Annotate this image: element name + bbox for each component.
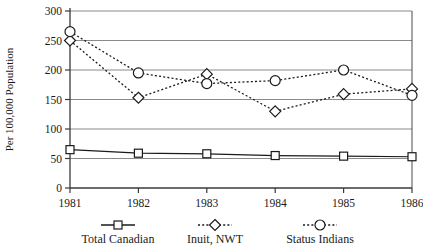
legend-square-marker bbox=[114, 221, 122, 229]
y-tick-label-200: 200 bbox=[45, 64, 63, 76]
series-line-1 bbox=[70, 41, 412, 112]
y-tick-label-250: 250 bbox=[45, 35, 63, 47]
x-tick-label-1985: 1985 bbox=[332, 197, 355, 209]
legend-diamond-marker bbox=[210, 220, 221, 231]
series-line-0 bbox=[70, 150, 412, 157]
series-markers-2 bbox=[65, 27, 417, 101]
series-inuit-nwt bbox=[70, 41, 412, 112]
x-tick-label-1986: 1986 bbox=[401, 197, 423, 209]
data-point-1-4 bbox=[338, 89, 349, 100]
series-total-canadian bbox=[70, 150, 412, 157]
y-tick-label-300: 300 bbox=[45, 5, 63, 17]
x-tick-label-1983: 1983 bbox=[195, 197, 218, 209]
legend-item-1: Inuit, NWT bbox=[187, 220, 244, 247]
series-line-2 bbox=[70, 32, 412, 96]
series-markers-1 bbox=[65, 35, 418, 117]
data-point-2-0 bbox=[65, 27, 75, 37]
legend-label-0: Total Canadian bbox=[82, 232, 155, 246]
data-point-0-0 bbox=[66, 146, 74, 154]
chart-figure: 0501001502002503001981198219831984198519… bbox=[0, 0, 423, 247]
x-tick-label-1981: 1981 bbox=[59, 197, 82, 209]
line-chart: 0501001502002503001981198219831984198519… bbox=[0, 0, 423, 247]
x-tick-label-1984: 1984 bbox=[264, 197, 287, 209]
legend-label-2: Status Indians bbox=[286, 232, 354, 246]
data-point-2-3 bbox=[270, 76, 280, 86]
data-point-1-3 bbox=[270, 106, 281, 117]
data-point-0-1 bbox=[134, 149, 142, 157]
y-tick-label-150: 150 bbox=[45, 94, 63, 106]
data-point-2-1 bbox=[133, 68, 143, 78]
y-axis-title: Per 100,000 Population bbox=[3, 47, 15, 151]
data-point-2-4 bbox=[339, 65, 349, 75]
series-group bbox=[65, 27, 418, 161]
legend-circle-marker bbox=[315, 220, 325, 230]
y-tick-label-100: 100 bbox=[45, 123, 63, 135]
y-tick-label-0: 0 bbox=[56, 182, 62, 194]
y-tick-label-50: 50 bbox=[51, 153, 63, 165]
data-point-0-3 bbox=[271, 152, 279, 160]
legend-label-1: Inuit, NWT bbox=[187, 232, 244, 246]
data-point-2-5 bbox=[407, 90, 417, 100]
data-point-1-1 bbox=[133, 92, 144, 103]
data-point-0-2 bbox=[203, 150, 211, 158]
data-point-0-5 bbox=[408, 153, 416, 161]
legend-item-0: Total Canadian bbox=[82, 221, 155, 246]
legend-item-2: Status Indians bbox=[286, 220, 354, 246]
x-tick-label-1982: 1982 bbox=[127, 197, 150, 209]
series-status-indians bbox=[70, 32, 412, 96]
data-point-0-4 bbox=[340, 152, 348, 160]
data-point-2-2 bbox=[202, 79, 212, 89]
